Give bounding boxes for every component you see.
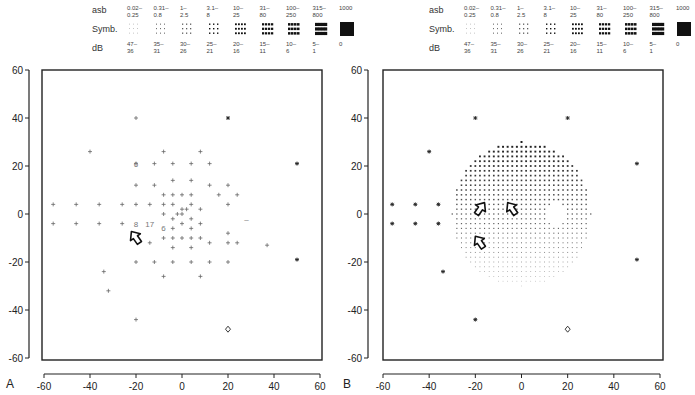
x-tick-label: 60 — [314, 381, 326, 392]
test-point-plus-icon — [180, 222, 184, 226]
test-point-star-icon — [295, 258, 299, 262]
legend-symbol-icon — [233, 22, 249, 36]
test-point-plus-icon — [171, 260, 175, 264]
legend-db-value: 20– 16 — [233, 41, 255, 55]
legend-db-value: 35– 31 — [154, 41, 176, 55]
legend-db-value: 10– 6 — [286, 41, 308, 55]
legend-symbol-icon — [597, 22, 613, 36]
test-point-plus-icon — [171, 226, 175, 230]
y-tick-label: 0 — [17, 209, 23, 220]
legend-asb-label: asb — [92, 5, 107, 15]
legend-asb-value: 100– 250 — [286, 5, 308, 19]
y-tick-label: 60 — [12, 65, 24, 76]
legend-b: asb Symb. dB 0.02– 0.250.31– 0.81– 2.53.… — [333, 0, 667, 56]
legend-asb-value: 315– 800 — [650, 5, 672, 19]
fixation-diamond-icon — [565, 326, 570, 332]
legend-symbol-icon — [517, 22, 533, 36]
x-tick-label: 40 — [268, 381, 280, 392]
test-point-plus-icon — [189, 226, 193, 230]
test-point-plus-icon — [198, 207, 202, 211]
test-point-star-icon — [473, 318, 477, 322]
plot-b: 6040200-20-40-60-60-40-200204060 — [333, 62, 667, 395]
sensitivity-grid — [452, 141, 592, 286]
legend-symbol-icon — [676, 22, 692, 36]
y-tick-label: 40 — [12, 113, 24, 124]
test-point-plus-icon — [208, 260, 212, 264]
test-point-plus-icon — [152, 183, 156, 187]
test-point-plus-icon — [171, 217, 175, 221]
test-point-plus-icon — [134, 202, 138, 206]
test-point-plus-icon — [180, 207, 184, 211]
legend-asb-value: 0.02– 0.25 — [127, 5, 149, 19]
legend-asb-value: 0.31– 0.8 — [154, 5, 176, 19]
threshold-value-label: 6 — [161, 224, 166, 233]
y-tick-label: 20 — [351, 161, 363, 172]
test-point-plus-icon — [148, 241, 152, 245]
test-point-plus-icon — [171, 236, 175, 240]
test-point-plus-icon — [189, 178, 193, 182]
test-point-plus-icon — [226, 183, 230, 187]
legend-symbol-icon — [260, 22, 276, 36]
y-tick-label: 40 — [351, 113, 363, 124]
x-tick-label: 20 — [562, 381, 574, 392]
test-point-plus-icon — [134, 183, 138, 187]
test-point-plus-icon — [185, 207, 189, 211]
legend-symb-label: Symb. — [429, 24, 455, 34]
test-point-plus-icon — [74, 222, 78, 226]
test-point-plus-icon — [134, 318, 138, 322]
test-point-plus-icon — [162, 274, 166, 278]
y-tick-label: -60 — [9, 353, 24, 364]
x-tick-label: 60 — [654, 381, 666, 392]
x-tick-label: -20 — [129, 381, 144, 392]
test-point-plus-icon — [162, 150, 166, 154]
test-point-plus-icon — [152, 260, 156, 264]
test-point-plus-icon — [189, 217, 193, 221]
test-point-star-icon — [413, 222, 417, 226]
test-point-star-icon — [473, 116, 477, 120]
plot-a: 6040200-20-40-60-60-40-20020406068176– — [0, 62, 333, 395]
test-point-star-icon — [436, 202, 440, 206]
legend-db-value: 47– 36 — [464, 41, 486, 55]
legend-asb-value: 1000 — [676, 5, 695, 12]
x-tick-label: 0 — [519, 381, 525, 392]
test-point-star-icon — [390, 222, 394, 226]
legend-asb-value: 10– 25 — [233, 5, 255, 19]
legend-db-label: dB — [429, 43, 440, 53]
arrow-icon — [126, 228, 144, 246]
test-point-plus-icon — [97, 222, 101, 226]
arrow-icon — [503, 199, 521, 217]
panel-label-b: B — [343, 377, 351, 391]
legend-symbol-icon — [544, 22, 560, 36]
legend-symb-label: Symb. — [92, 24, 118, 34]
test-point-plus-icon — [208, 241, 212, 245]
legend-asb-value: 100– 250 — [623, 5, 645, 19]
test-point-star-icon — [441, 270, 445, 274]
test-point-plus-icon — [74, 202, 78, 206]
test-point-plus-icon — [134, 116, 138, 120]
legend-db-value: 47– 36 — [127, 41, 149, 55]
legend-asb-value: 1– 2.5 — [517, 5, 539, 19]
x-tick-label: 0 — [179, 381, 185, 392]
test-point-star-icon — [295, 162, 299, 166]
legend-asb-value: 31– 80 — [597, 5, 619, 19]
test-point-plus-icon — [148, 202, 152, 206]
legend-db-value: 5– 1 — [313, 41, 335, 55]
legend-symbol-icon — [127, 22, 143, 36]
test-point-plus-icon — [171, 246, 175, 250]
legend-asb-label: asb — [429, 5, 444, 15]
threshold-value-label: 17 — [145, 220, 154, 229]
legend-db-value: 35– 31 — [491, 41, 513, 55]
test-point-plus-icon — [217, 193, 221, 197]
test-point-plus-icon — [226, 260, 230, 264]
arrow-icon — [470, 233, 488, 251]
test-point-plus-icon — [208, 183, 212, 187]
legend-asb-value: 0.02– 0.25 — [464, 5, 486, 19]
test-point-plus-icon — [51, 202, 55, 206]
legend-db-value: 15– 11 — [260, 41, 282, 55]
y-tick-label: 20 — [12, 161, 24, 172]
threshold-value-label: 8 — [134, 220, 139, 229]
legend-db-value: 5– 1 — [650, 41, 672, 55]
y-tick-label: -40 — [9, 305, 24, 316]
test-point-plus-icon — [106, 289, 110, 293]
test-point-star-icon — [413, 202, 417, 206]
